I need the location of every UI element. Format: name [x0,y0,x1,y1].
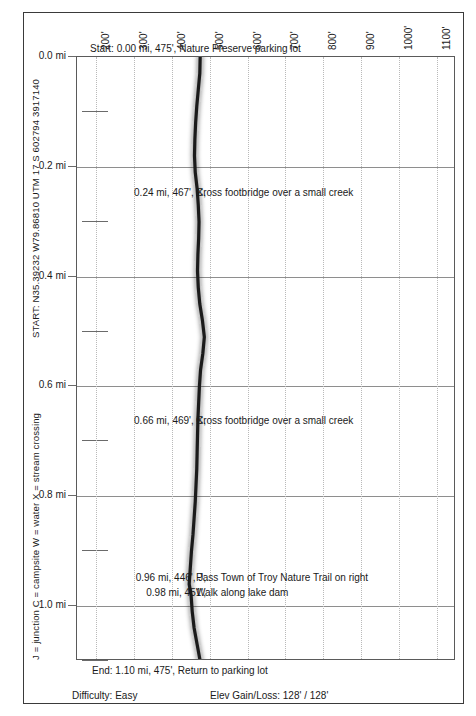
elevation-tick-label: 300' [138,31,149,50]
distance-tick-label: 0.8 mi [22,489,66,500]
waypoint-marker-wp-024: 0.24 mi, 467', X, [96,187,206,198]
elevation-tick-label: 700' [289,31,300,50]
profile-plot-area [76,56,455,660]
elevation-tick-label: 400' [176,31,187,50]
elevation-tick-label: 900' [365,31,376,50]
elevation-tick-label: 1100' [441,27,452,50]
symbol-legend-label: J = junction C = campsite W = water X = … [30,413,41,660]
elevation-tick-label: 800' [327,31,338,50]
distance-tick-label: 1.0 mi [22,599,66,610]
elevation-trace [77,57,454,659]
elevation-tick-label: 1000' [403,26,414,50]
plot-gridlines [77,57,454,659]
distance-tick-label: 0.6 mi [22,379,66,390]
elevation-tick-label: 500' [214,31,225,50]
waypoint-marker-wp-066: 0.66 mi, 469', X, [96,415,206,426]
distance-tick-label: 0.4 mi [22,270,66,281]
elevation-tick-label: 600' [252,31,263,50]
elevation-gain-loss-label: Elev Gain/Loss: 128' / 128' [210,690,328,701]
elevation-profile-page: START: N35.39232 W79.86810 UTM 17 S 6027… [0,0,476,716]
waypoint-description-wp-096: Pass Town of Troy Nature Trail on right [196,572,368,583]
distance-minor-tick [82,660,108,661]
trail-start-note: Start: 0.00 mi, 475', Nature Preserve pa… [90,43,301,54]
elevation-tick-label: 200' [100,31,111,50]
waypoint-description-wp-024: Cross footbridge over a small creek [196,187,353,198]
distance-tick-label: 0.0 mi [22,50,66,61]
start-coordinates-label: START: N35.39232 W79.86810 UTM 17 S 6027… [30,79,41,338]
distance-tick-label: 0.2 mi [22,160,66,171]
waypoint-marker-wp-096: 0.96 mi, 446', J, [96,572,206,583]
waypoint-description-wp-066: Cross footbridge over a small creek [196,415,353,426]
difficulty-label: Difficulty: Easy [72,690,137,701]
trail-end-note: End: 1.10 mi, 475', Return to parking lo… [92,665,268,676]
waypoint-description-wp-098: Walk along lake dam [196,587,288,598]
waypoint-marker-wp-098: 0.98 mi, 451', [96,587,206,598]
